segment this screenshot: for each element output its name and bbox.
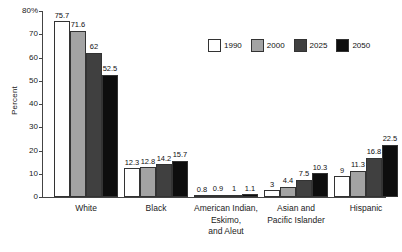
legend-swatch xyxy=(336,39,349,52)
bar xyxy=(350,171,366,197)
legend-swatch xyxy=(251,39,264,52)
bar-group: 12.312.814.215.7 xyxy=(124,11,188,197)
y-axis-tick-label: 0 xyxy=(4,193,38,201)
bar xyxy=(70,31,86,197)
bar xyxy=(156,164,172,197)
legend-item[interactable]: 2025 xyxy=(294,39,328,52)
y-axis-tick-mark xyxy=(39,11,42,12)
category-label-line: and Aleut xyxy=(178,226,274,238)
legend-item[interactable]: 2000 xyxy=(251,39,285,52)
legend-label: 2050 xyxy=(352,41,370,50)
bar xyxy=(296,180,312,197)
y-axis-tick-mark xyxy=(39,104,42,105)
y-axis-tick-mark xyxy=(39,81,42,82)
bar-value-label: 62 xyxy=(81,43,107,51)
category-label-line: Hispanic xyxy=(318,203,402,215)
bar xyxy=(312,173,328,197)
bar xyxy=(280,187,296,197)
y-axis-tick-mark xyxy=(39,151,42,152)
legend-swatch xyxy=(208,39,221,52)
bar-group: 75.771.66252.5 xyxy=(54,11,118,197)
bar xyxy=(172,161,188,198)
y-axis-tick-label: 80% xyxy=(4,7,38,15)
bar-value-label: 15.7 xyxy=(167,151,193,159)
y-axis-tick-mark xyxy=(39,197,42,198)
bar xyxy=(366,158,382,197)
bar xyxy=(194,195,210,197)
bar-value-label: 71.6 xyxy=(65,21,91,29)
legend-label: 2000 xyxy=(267,41,285,50)
y-axis-tick-labels: 80%706050403020100 xyxy=(0,0,38,252)
category-label-line: Pacific Islander xyxy=(248,215,344,227)
bar xyxy=(264,190,280,197)
y-axis-tick-mark xyxy=(39,58,42,59)
y-axis-tick-mark xyxy=(39,127,42,128)
bar xyxy=(140,167,156,197)
bar xyxy=(54,21,70,197)
y-axis-tick-mark xyxy=(39,34,42,35)
legend-label: 1990 xyxy=(224,41,242,50)
bar xyxy=(334,176,350,197)
y-axis-tick-label: 10 xyxy=(4,170,38,178)
bar xyxy=(210,195,226,197)
y-axis-tick-label: 40 xyxy=(4,100,38,108)
y-axis-tick-label: 60 xyxy=(4,54,38,62)
legend-item[interactable]: 1990 xyxy=(208,39,242,52)
legend-item[interactable]: 2050 xyxy=(336,39,370,52)
y-axis-tick-label: 70 xyxy=(4,30,38,38)
legend-swatch xyxy=(294,39,307,52)
bar xyxy=(86,53,102,197)
bar xyxy=(226,195,242,197)
bar xyxy=(102,75,118,197)
y-axis-tick-label: 30 xyxy=(4,123,38,131)
y-axis-tick-mark xyxy=(39,174,42,175)
bar-value-label: 22.5 xyxy=(377,135,402,143)
x-axis-line xyxy=(42,197,386,198)
x-axis-category-label: Hispanic xyxy=(318,203,402,215)
bar xyxy=(382,145,398,197)
legend-label: 2025 xyxy=(310,41,328,50)
y-axis-tick-label: 50 xyxy=(4,77,38,85)
bar-value-label: 75.7 xyxy=(49,12,75,20)
bar xyxy=(124,168,140,197)
bar-value-label: 52.5 xyxy=(97,65,123,73)
y-axis-tick-label: 20 xyxy=(4,147,38,155)
bar xyxy=(242,194,258,197)
chart-legend: 1990200020252050 xyxy=(208,39,379,52)
